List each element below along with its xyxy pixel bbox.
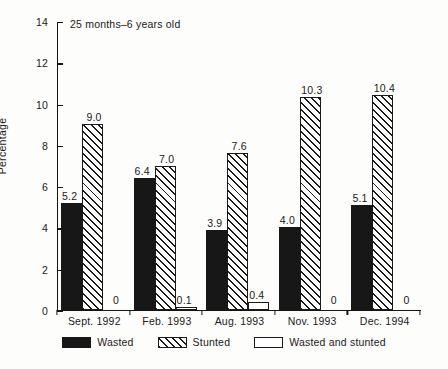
bar-value-label: 6.4 (135, 165, 150, 177)
legend-label: Wasted (97, 336, 133, 348)
y-axis-title: Percentage (0, 118, 8, 175)
bar-group: 4.010.30 (279, 21, 342, 310)
bar-slot: 0.1 (176, 21, 197, 310)
bar-group: 5.29.00 (61, 21, 124, 310)
x-tick-mark (129, 310, 130, 315)
bar-slot: 0 (321, 21, 342, 310)
bar-slot: 6.4 (134, 21, 155, 310)
bar-value-label: 4.0 (280, 214, 295, 226)
bar-value-label: 9.0 (86, 111, 101, 123)
bar-slot: 3.9 (206, 21, 227, 310)
legend-item-stunted[interactable]: Stunted (158, 336, 231, 348)
bar-value-label: 0 (331, 294, 337, 306)
bar-both[interactable]: 0.4 (248, 302, 269, 310)
bar-slot: 0.4 (248, 21, 269, 310)
x-tick-mark (274, 310, 275, 315)
x-tick-label: Aug. 1993 (215, 315, 265, 327)
legend-label: Stunted (193, 336, 231, 348)
bar-slot: 10.4 (372, 21, 393, 310)
x-tick-label: Dec. 1994 (360, 315, 410, 327)
bar-wasted[interactable]: 4.0 (279, 227, 300, 310)
bar-group-bars: 6.47.00.1 (134, 21, 197, 310)
bar-wasted[interactable]: 5.2 (61, 203, 82, 310)
bar-group: 3.97.60.4 (206, 21, 269, 310)
chart-legend: WastedStuntedWasted and stunted (0, 336, 448, 348)
y-tick-label: 6 (42, 181, 48, 193)
y-tick-label: 8 (42, 140, 48, 152)
legend-swatch-wasted (62, 337, 91, 348)
bar-group: 5.110.40 (351, 21, 414, 310)
bar-value-label: 10.3 (301, 84, 322, 96)
x-tick-mark (347, 310, 348, 315)
y-tick-label: 14 (36, 16, 48, 28)
x-tick-mark (56, 310, 57, 315)
bar-value-label: 0 (403, 294, 409, 306)
y-tick-label: 10 (36, 99, 48, 111)
bar-slot: 7.0 (155, 21, 176, 310)
bar-slot: 9.0 (82, 21, 103, 310)
bar-slot: 10.3 (300, 21, 321, 310)
legend-item-both[interactable]: Wasted and stunted (254, 336, 386, 348)
plot-area: 02468101214 5.29.006.47.00.13.97.60.44.0… (57, 22, 420, 310)
bar-stunted[interactable]: 7.6 (227, 153, 248, 310)
bar-stunted[interactable]: 7.0 (155, 166, 176, 311)
bar-group: 6.47.00.1 (134, 21, 197, 310)
bar-value-label: 3.9 (207, 217, 222, 229)
bar-value-label: 0.4 (249, 289, 264, 301)
y-tick-label: 2 (42, 264, 48, 276)
bar-value-label: 7.0 (159, 153, 174, 165)
bar-value-label: 5.2 (62, 190, 77, 202)
bar-group-bars: 5.29.00 (61, 21, 124, 310)
bar-chart: Percentage 25 months–6 years old 0246810… (0, 0, 448, 369)
bar-value-label: 0.1 (177, 294, 192, 306)
legend-swatch-both (254, 337, 283, 348)
bar-stunted[interactable]: 10.4 (372, 95, 393, 310)
bar-slot: 7.6 (227, 21, 248, 310)
y-tick-label: 0 (42, 305, 48, 317)
bar-wasted[interactable]: 3.9 (206, 230, 227, 311)
bar-stunted[interactable]: 9.0 (82, 124, 103, 310)
x-tick-mark (202, 310, 203, 315)
bar-group-bars: 3.97.60.4 (206, 21, 269, 310)
bar-both[interactable]: 0.1 (176, 307, 197, 310)
bar-wasted[interactable]: 5.1 (351, 205, 372, 310)
bar-value-label: 10.4 (374, 82, 395, 94)
x-tick-label: Sept. 1992 (68, 315, 121, 327)
bar-value-label: 5.1 (352, 192, 367, 204)
legend-item-wasted[interactable]: Wasted (62, 336, 133, 348)
legend-swatch-stunted (158, 337, 187, 348)
x-axis-line (57, 310, 421, 311)
bar-value-label: 7.6 (232, 140, 247, 152)
bar-value-label: 0 (113, 294, 119, 306)
legend-label: Wasted and stunted (289, 336, 386, 348)
x-tick-mark (419, 310, 420, 315)
bar-wasted[interactable]: 6.4 (134, 178, 155, 310)
x-tick-label: Feb. 1993 (142, 315, 191, 327)
bar-group-bars: 4.010.30 (279, 21, 342, 310)
bar-slot: 0 (103, 21, 124, 310)
bar-slot: 4.0 (279, 21, 300, 310)
bar-slot: 0 (393, 21, 414, 310)
bar-stunted[interactable]: 10.3 (300, 97, 321, 310)
y-tick-label: 4 (42, 222, 48, 234)
bar-slot: 5.1 (351, 21, 372, 310)
x-tick-label: Nov. 1993 (288, 315, 337, 327)
y-tick-label: 12 (36, 57, 48, 69)
bar-slot: 5.2 (61, 21, 82, 310)
bar-group-bars: 5.110.40 (351, 21, 414, 310)
y-tick-mark (57, 311, 63, 312)
